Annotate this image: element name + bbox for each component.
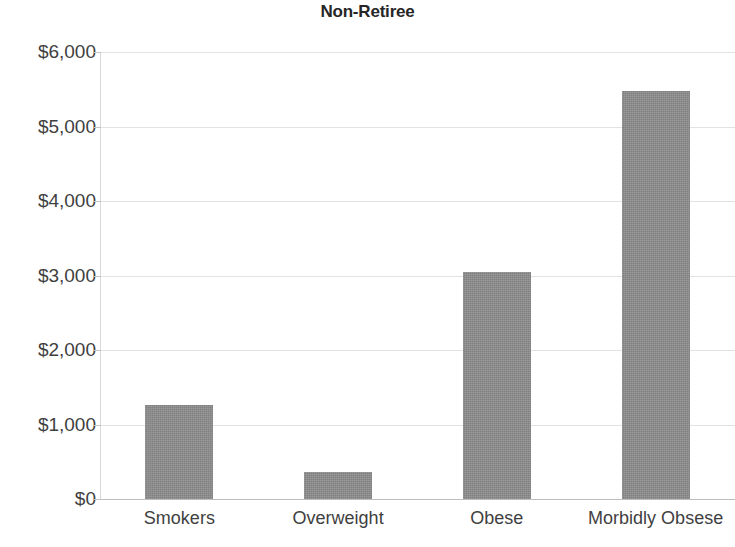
y-axis-tick-mark	[94, 127, 101, 128]
x-axis-tick-label: Morbidly Obsese	[576, 508, 735, 529]
x-axis-line	[100, 499, 735, 500]
chart-title: Non-Retiree	[0, 2, 735, 22]
x-axis-tick-label: Smokers	[100, 508, 259, 529]
bar	[145, 405, 213, 499]
y-axis-tick-mark	[94, 276, 101, 277]
bar	[304, 472, 372, 499]
bar-chart: Non-Retiree $0$1,000$2,000$3,000$4,000$5…	[0, 0, 735, 547]
y-axis-tick-label: $4,000	[4, 190, 96, 212]
gridline	[100, 52, 735, 53]
y-axis-tick-label: $6,000	[4, 41, 96, 63]
y-axis-tick-label: $1,000	[4, 414, 96, 436]
y-axis: $0$1,000$2,000$3,000$4,000$5,000$6,000	[0, 0, 96, 547]
y-axis-tick-mark	[94, 350, 101, 351]
x-axis-tick-label: Overweight	[259, 508, 418, 529]
x-axis-tick-label: Obese	[418, 508, 577, 529]
bar	[622, 91, 690, 499]
y-axis-tick-label: $5,000	[4, 116, 96, 138]
y-axis-tick-label: $0	[4, 488, 96, 510]
y-axis-tick-mark	[94, 52, 101, 53]
y-axis-tick-mark	[94, 201, 101, 202]
y-axis-tick-label: $3,000	[4, 265, 96, 287]
y-axis-tick-mark	[94, 425, 101, 426]
y-axis-tick-label: $2,000	[4, 339, 96, 361]
y-axis-tick-mark	[94, 499, 101, 500]
bar	[463, 272, 531, 499]
